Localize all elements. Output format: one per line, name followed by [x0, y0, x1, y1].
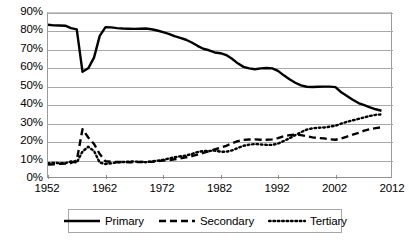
x-axis: 1952196219721982199220022012: [0, 181, 409, 199]
x-tick-label: 1962: [82, 181, 128, 195]
y-tick-label: 70%: [0, 42, 43, 54]
x-tick-label: 1992: [254, 181, 300, 195]
y-tick-label: 80%: [0, 23, 43, 35]
plot-area: [47, 12, 392, 178]
x-tick-label: 1952: [24, 181, 70, 195]
y-tick-label: 30%: [0, 116, 43, 128]
y-tick-label: 90%: [0, 5, 43, 17]
x-tick-label: 1972: [139, 181, 185, 195]
legend-label: Secondary: [200, 215, 254, 227]
x-tick-label: 1982: [197, 181, 243, 195]
legend-label: Primary: [105, 215, 144, 227]
legend-item-secondary[interactable]: Secondary: [158, 215, 254, 227]
line-chart: 90%80%70%60%50%40%30%20%10%0% 1952196219…: [0, 0, 409, 242]
series-layer: [48, 13, 393, 179]
y-tick-label: 10%: [0, 153, 43, 165]
legend-swatch-dotted: [268, 216, 306, 226]
x-tick-label: 2002: [312, 181, 358, 195]
legend-item-primary[interactable]: Primary: [63, 215, 144, 227]
series-line-primary: [48, 25, 382, 111]
y-tick-label: 20%: [0, 134, 43, 146]
y-tick-label: 60%: [0, 60, 43, 72]
chart-legend: PrimarySecondaryTertiary: [68, 209, 342, 233]
legend-swatch-solid: [63, 216, 101, 226]
x-tick-label: 2012: [369, 181, 409, 195]
legend-item-tertiary[interactable]: Tertiary: [268, 215, 347, 227]
legend-swatch-dashed: [158, 216, 196, 226]
y-axis: 90%80%70%60%50%40%30%20%10%0%: [0, 0, 43, 190]
y-tick-label: 40%: [0, 97, 43, 109]
y-tick-label: 50%: [0, 79, 43, 91]
legend-label: Tertiary: [310, 215, 347, 227]
